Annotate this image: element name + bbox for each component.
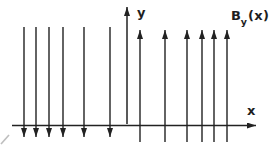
field-symbol: B <box>231 8 241 23</box>
field-subscript: y <box>241 16 248 27</box>
magnetic-field-diagram: y x By(x) <box>0 0 280 147</box>
field-argument: (x) <box>248 8 269 23</box>
field-function-label: By(x) <box>231 9 269 25</box>
scan-smudge <box>1 135 9 144</box>
y-axis-label: y <box>137 6 145 19</box>
x-axis-label: x <box>247 104 255 117</box>
scan-artifact <box>1 135 9 144</box>
